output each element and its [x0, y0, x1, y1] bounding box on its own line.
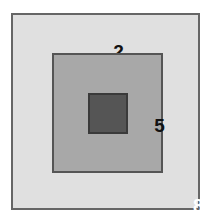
square-middle-label: 5	[54, 116, 211, 135]
nested-squares-diagram: 2 5 8	[0, 0, 211, 220]
square-inner: 8	[88, 93, 128, 134]
square-inner-label: 8	[178, 197, 211, 215]
